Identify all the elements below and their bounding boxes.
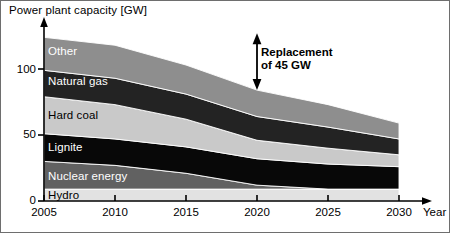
band-label-hard-coal: Hard coal	[48, 109, 98, 121]
y-tick-label-0: 0	[4, 194, 36, 206]
x-axis-name: Year	[423, 206, 446, 218]
replacement-annotation-line2: of 45 GW	[261, 59, 311, 72]
band-label-other: Other	[48, 45, 77, 57]
band-label-hydro: Hydro	[48, 189, 79, 201]
y-tick-label-50: 50	[4, 128, 36, 140]
replacement-annotation-line1: Replacement	[261, 46, 333, 59]
x-tick-label-2010: 2010	[93, 206, 137, 218]
chart-figure: Power plant capacity [GW] 100 50 0 2005 …	[0, 0, 450, 233]
band-label-nuclear-energy: Nuclear energy	[48, 170, 127, 182]
x-tick-label-2005: 2005	[22, 206, 66, 218]
band-label-lignite: Lignite	[48, 141, 83, 153]
x-tick-label-2020: 2020	[235, 206, 279, 218]
x-tick-label-2030: 2030	[377, 206, 421, 218]
x-tick-label-2015: 2015	[164, 206, 208, 218]
x-tick-label-2025: 2025	[306, 206, 350, 218]
y-tick-label-100: 100	[4, 63, 36, 75]
area-band-hydro	[44, 189, 399, 201]
band-label-natural-gas: Natural gas	[48, 75, 108, 87]
